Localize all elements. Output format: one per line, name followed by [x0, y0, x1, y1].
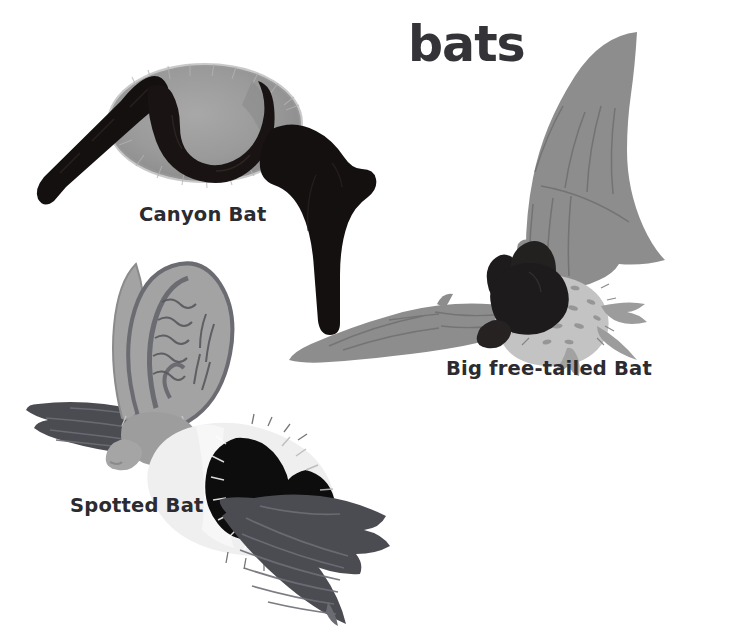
big-free-tailed-bat-caption: Big free-tailed Bat — [446, 357, 652, 380]
spotted-bat-caption: Spotted Bat — [70, 494, 204, 517]
illustration-page: bats — [0, 0, 736, 634]
spotted-bat-illustration — [10, 258, 430, 618]
spotted-bat-ears — [113, 263, 232, 432]
canyon-bat-caption: Canyon Bat — [139, 203, 266, 226]
